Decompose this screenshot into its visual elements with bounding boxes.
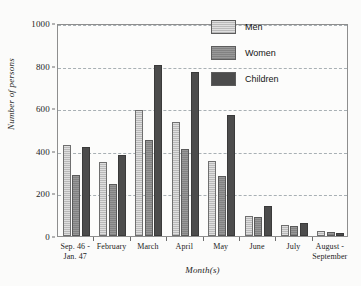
x-tick-mark <box>275 237 276 241</box>
legend: MenWomenChildren <box>211 17 297 95</box>
x-tick-mark <box>312 237 313 241</box>
x-tick-label: August - September <box>306 242 354 261</box>
x-tick-mark <box>166 237 167 241</box>
bar-women <box>327 232 335 236</box>
y-tick-mark <box>52 66 55 67</box>
gridline <box>58 110 347 111</box>
y-tick-mark <box>52 109 55 110</box>
bar-women <box>218 176 226 236</box>
gridline <box>58 153 347 154</box>
bar-men <box>208 161 216 236</box>
bar-women <box>72 175 80 236</box>
y-axis: 02004006008001000 <box>0 24 55 237</box>
bar-children <box>264 206 272 236</box>
bar-children <box>82 147 90 236</box>
bar-men <box>99 162 107 236</box>
bar-children <box>300 223 308 236</box>
bar-men <box>281 225 289 236</box>
bar-men <box>245 216 253 236</box>
bar-women <box>109 184 117 236</box>
legend-swatch-women <box>211 46 236 60</box>
x-tick-mark <box>130 237 131 241</box>
x-tick-mark <box>203 237 204 241</box>
y-tick-label: 0 <box>45 232 50 242</box>
x-axis-title: Month(s) <box>57 265 348 275</box>
bar-men <box>63 145 71 236</box>
legend-item-men: Men <box>211 17 297 37</box>
chart-figure: Number of persons 02004006008001000 Sep.… <box>0 0 361 286</box>
bar-children <box>118 155 126 236</box>
legend-item-women: Women <box>211 43 297 63</box>
bar-children <box>336 233 344 236</box>
bar-men <box>135 110 143 236</box>
legend-label-children: Children <box>245 74 279 84</box>
plot-area <box>57 24 348 237</box>
bar-men <box>317 231 325 236</box>
y-tick-label: 200 <box>36 189 50 199</box>
bar-children <box>227 115 235 236</box>
bar-children <box>191 72 199 236</box>
y-tick-mark <box>52 151 55 152</box>
legend-swatch-children <box>211 72 236 86</box>
y-tick-label: 800 <box>36 62 50 72</box>
gridline <box>58 25 347 26</box>
y-tick-label: 400 <box>36 147 50 157</box>
bar-women <box>254 217 262 236</box>
bar-women <box>181 149 189 236</box>
legend-swatch-men <box>211 20 236 34</box>
x-tick-mark <box>93 237 94 241</box>
x-tick-mark <box>239 237 240 241</box>
y-tick-mark <box>52 194 55 195</box>
y-tick-mark <box>52 24 55 25</box>
y-tick-mark <box>52 237 55 238</box>
legend-label-women: Women <box>245 48 276 58</box>
y-tick-label: 600 <box>36 104 50 114</box>
y-tick-label: 1000 <box>31 19 50 29</box>
bar-men <box>172 122 180 236</box>
bar-children <box>154 65 162 236</box>
gridline <box>58 68 347 69</box>
bar-women <box>145 140 153 236</box>
legend-item-children: Children <box>211 69 297 89</box>
legend-label-men: Men <box>245 22 263 32</box>
bar-women <box>290 226 298 236</box>
